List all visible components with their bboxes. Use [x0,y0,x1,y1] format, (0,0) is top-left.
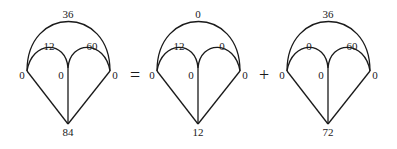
top-arc-label: 36 [63,8,75,20]
diagram-equation: 36 12 60 0 0 0 84 = 0 12 0 0 0 0 12 + 36… [0,0,397,149]
center-node-label: 0 [318,69,324,81]
left-arc-label: 12 [174,40,185,52]
right-arc-label: 0 [219,40,225,52]
left-node-label: 0 [149,69,155,81]
diagram-term-2: 36 0 60 0 0 0 72 [279,8,378,138]
top-arc-label: 36 [323,8,335,20]
diagram-lhs: 36 12 60 0 0 0 84 [19,8,118,138]
right-node-label: 0 [242,69,248,81]
edge-right-bottom [68,71,110,124]
plus-sign: + [259,65,269,85]
bottom-node-label: 12 [193,126,204,138]
center-node-label: 0 [58,69,64,81]
top-arc-label: 0 [195,8,201,20]
right-arc-label: 60 [347,40,359,52]
center-node-label: 0 [188,69,194,81]
left-node-label: 0 [19,69,25,81]
left-arc-label: 12 [44,40,55,52]
edge-right-bottom [328,71,370,124]
edge-right-bottom [198,71,240,124]
bottom-node-label: 72 [323,126,334,138]
equals-sign: = [130,65,140,85]
left-arc-label: 0 [306,40,312,52]
diagram-term-1: 0 12 0 0 0 0 12 [149,8,248,138]
right-node-label: 0 [372,69,378,81]
right-node-label: 0 [112,69,118,81]
right-arc-label: 60 [87,40,99,52]
bottom-node-label: 84 [63,126,75,138]
left-node-label: 0 [279,69,285,81]
